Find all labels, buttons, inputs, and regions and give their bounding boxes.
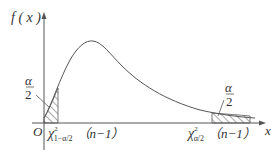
left-tail-region (44, 88, 58, 123)
left-alpha-numerator: α (25, 74, 32, 87)
density-curve (44, 41, 255, 118)
left-alpha-denominator: 2 (25, 88, 32, 101)
y-axis-label: f ( x ) (11, 11, 41, 25)
y-axis-arrow-icon (42, 12, 47, 19)
x-axis-label: x (265, 124, 271, 137)
right-tail-region (212, 113, 250, 123)
right-quantile-label: χ2α/2（n−1） (188, 125, 256, 141)
right-alpha-denominator: 2 (226, 95, 233, 108)
origin-label: O (33, 125, 42, 138)
left-alpha-leader (36, 95, 50, 108)
left-quantile-label: χ21−α/2（n−1） (48, 125, 124, 141)
right-alpha-numerator: α (225, 81, 232, 94)
